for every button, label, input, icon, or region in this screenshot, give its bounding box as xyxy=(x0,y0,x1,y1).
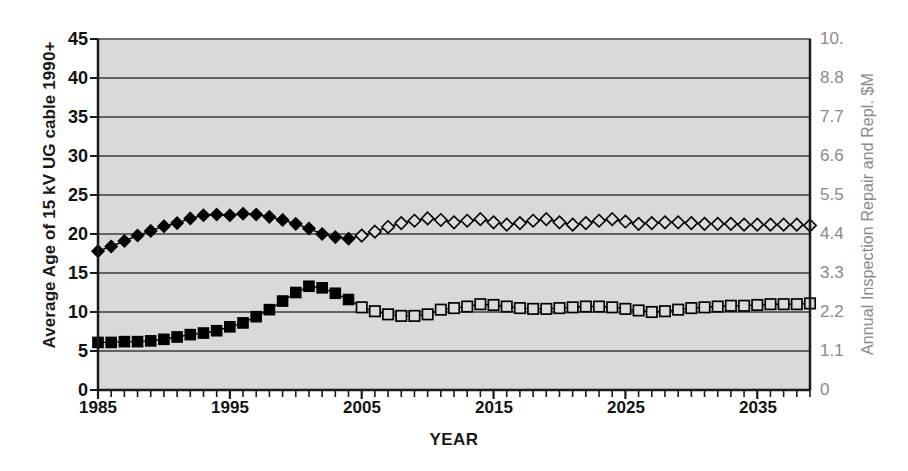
x-axis-ticks xyxy=(98,390,810,399)
open-square-marker-2034 xyxy=(739,301,749,311)
open-square-marker-2016 xyxy=(502,301,512,311)
chart-figure: Average Age of 15 kV UG cable 1990+ Annu… xyxy=(0,0,908,471)
open-square-marker-2007 xyxy=(383,309,393,319)
open-square-marker-2017 xyxy=(515,303,525,313)
open-square-marker-2006 xyxy=(370,306,380,316)
filled-square-marker-1998 xyxy=(264,304,274,314)
open-square-marker-2008 xyxy=(396,311,406,321)
open-square-marker-2037 xyxy=(778,299,788,309)
filled-square-marker-2004 xyxy=(343,294,353,304)
filled-square-marker-2003 xyxy=(330,288,340,298)
filled-square-marker-1997 xyxy=(251,311,261,321)
filled-square-marker-1991 xyxy=(172,332,182,342)
filled-square-marker-2002 xyxy=(317,283,327,293)
filled-square-marker-2001 xyxy=(304,281,314,291)
filled-square-marker-1986 xyxy=(106,337,116,347)
open-square-marker-2024 xyxy=(607,302,617,312)
open-square-marker-2023 xyxy=(594,301,604,311)
open-square-marker-2033 xyxy=(726,301,736,311)
open-square-marker-2009 xyxy=(409,311,419,321)
plot-area xyxy=(0,0,908,471)
open-square-marker-2025 xyxy=(620,304,630,314)
filled-square-marker-1994 xyxy=(211,326,221,336)
open-square-marker-2019 xyxy=(541,304,551,314)
open-square-marker-2031 xyxy=(699,302,709,312)
open-square-marker-2030 xyxy=(686,303,696,313)
open-square-marker-2028 xyxy=(660,306,670,316)
filled-square-marker-1992 xyxy=(185,329,195,339)
open-square-marker-2005 xyxy=(357,302,367,312)
filled-square-marker-1993 xyxy=(198,328,208,338)
open-square-marker-2027 xyxy=(647,307,657,317)
open-square-marker-2021 xyxy=(567,302,577,312)
open-square-marker-2020 xyxy=(554,303,564,313)
open-square-marker-2035 xyxy=(752,300,762,310)
filled-square-marker-1987 xyxy=(119,336,129,346)
open-square-marker-2015 xyxy=(488,300,498,310)
open-square-marker-2029 xyxy=(673,304,683,314)
open-square-marker-2014 xyxy=(475,299,485,309)
open-square-marker-2012 xyxy=(449,303,459,313)
filled-square-marker-1990 xyxy=(159,334,169,344)
open-square-marker-2018 xyxy=(528,304,538,314)
open-square-marker-2026 xyxy=(633,305,643,315)
filled-square-marker-1995 xyxy=(225,322,235,332)
filled-square-marker-2000 xyxy=(291,287,301,297)
filled-square-marker-1999 xyxy=(277,296,287,306)
open-square-marker-2036 xyxy=(765,299,775,309)
open-square-marker-2011 xyxy=(436,304,446,314)
filled-square-marker-1989 xyxy=(146,336,156,346)
open-square-marker-2010 xyxy=(422,309,432,319)
filled-square-marker-1996 xyxy=(238,318,248,328)
open-square-marker-2022 xyxy=(581,301,591,311)
open-square-marker-2038 xyxy=(792,299,802,309)
open-square-marker-2032 xyxy=(713,301,723,311)
open-square-marker-2013 xyxy=(462,301,472,311)
filled-square-marker-1988 xyxy=(132,336,142,346)
